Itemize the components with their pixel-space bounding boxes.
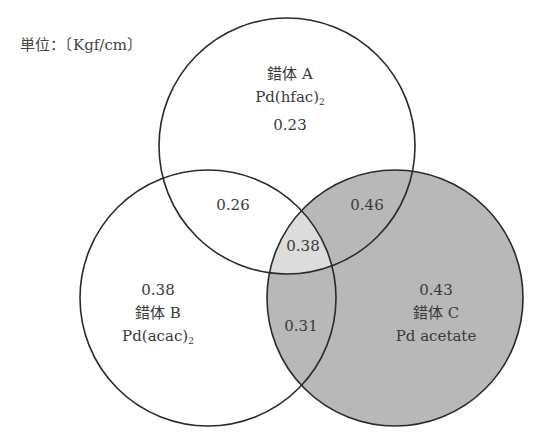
- complex-c-value: 0.43: [396, 279, 477, 302]
- label-complex-c: 0.43 錯体 C Pd acetate: [396, 279, 477, 348]
- label-complex-b: 0.38 錯体 B Pd(acac)2: [122, 279, 194, 353]
- complex-c-name: 錯体 C: [396, 302, 477, 325]
- label-complex-a: 錯体 A Pd(hfac)2 0.23: [255, 63, 325, 137]
- complex-a-value: 0.23: [255, 114, 325, 137]
- value-abc: 0.38: [286, 235, 319, 258]
- unit-label: 単位：〔Kgf/cm〕: [20, 33, 142, 54]
- complex-b-formula: Pd(acac)2: [122, 325, 194, 353]
- value-bc: 0.31: [284, 315, 317, 338]
- value-ab: 0.26: [216, 194, 249, 217]
- complex-c-formula: Pd acetate: [396, 325, 477, 348]
- complex-b-name: 錯体 B: [122, 302, 194, 325]
- complex-a-name: 錯体 A: [255, 63, 325, 86]
- complex-a-formula: Pd(hfac)2: [255, 86, 325, 114]
- value-ac: 0.46: [350, 194, 383, 217]
- complex-b-value: 0.38: [122, 279, 194, 302]
